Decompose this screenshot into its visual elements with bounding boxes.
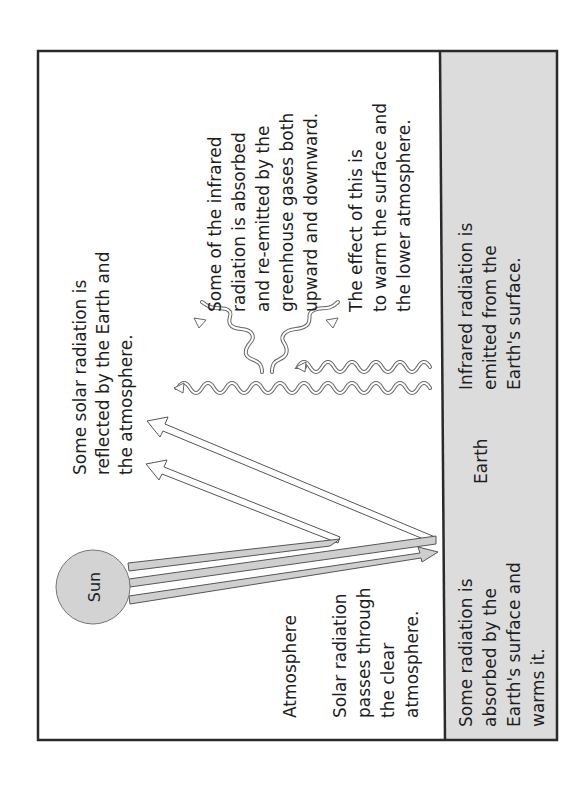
svg-text:Solar radiation: Solar radiation xyxy=(330,593,350,718)
atmosphere-label: Atmosphere xyxy=(280,615,300,718)
solar-beam-icon xyxy=(128,536,438,604)
caption-reflected: Some solar radiation is reflected by the… xyxy=(70,252,136,475)
svg-text:Some radiation is: Some radiation is xyxy=(456,578,476,727)
svg-text:Some solar radiation is: Some solar radiation is xyxy=(70,280,90,475)
svg-text:greenhouse gases both: greenhouse gases both xyxy=(277,113,297,312)
re-emitted-arrowhead-icon xyxy=(194,318,338,328)
svg-text:emitted from the: emitted from the xyxy=(480,245,500,390)
svg-text:passes through: passes through xyxy=(354,588,374,718)
greenhouse-effect-diagram: Sun Some solar radiation is reflected by… xyxy=(0,0,583,792)
caption-passes: Solar radiation passes through the clear… xyxy=(330,588,422,718)
svg-text:Earth's surface and: Earth's surface and xyxy=(504,562,524,727)
sun-icon: Sun xyxy=(56,550,130,624)
svg-text:The effect of this is: The effect of this is xyxy=(346,149,366,313)
earth-label: Earth xyxy=(471,438,491,484)
svg-text:radiation is absorbed: radiation is absorbed xyxy=(229,132,249,312)
svg-text:warms it.: warms it. xyxy=(528,648,548,727)
svg-text:the lower atmosphere.: the lower atmosphere. xyxy=(394,119,414,312)
svg-text:Earth's surface.: Earth's surface. xyxy=(504,257,524,390)
caption-effect: The effect of this is to warm the surfac… xyxy=(346,103,414,313)
svg-text:absorbed by the: absorbed by the xyxy=(480,588,500,727)
svg-text:reflected by the Earth and: reflected by the Earth and xyxy=(93,252,113,475)
svg-text:and re-emitted by the: and re-emitted by the xyxy=(253,126,273,312)
svg-text:the clear: the clear xyxy=(378,643,398,718)
svg-text:atmosphere.: atmosphere. xyxy=(402,611,422,718)
svg-text:upward and downward.: upward and downward. xyxy=(301,113,321,312)
svg-text:Infrared radiation is: Infrared radiation is xyxy=(456,223,476,390)
svg-text:to warm the surface and: to warm the surface and xyxy=(370,103,390,312)
svg-text:Some of the infrared: Some of the infrared xyxy=(205,137,225,312)
caption-greenhouse: Some of the infrared radiation is absorb… xyxy=(205,113,321,312)
sun-label: Sun xyxy=(85,572,104,602)
svg-text:the atmosphere.: the atmosphere. xyxy=(116,334,136,475)
reflected-arrow-icon xyxy=(146,417,435,543)
